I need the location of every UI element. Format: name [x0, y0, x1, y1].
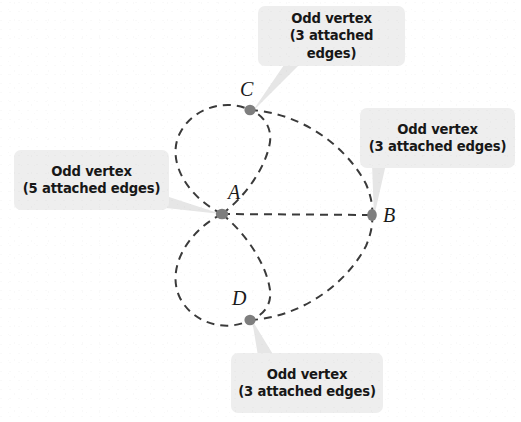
vertex-label-d: D: [232, 288, 246, 308]
diagram-canvas: A B C D Odd vertex (3 attached edges) Od…: [0, 0, 521, 422]
edge-d-b-outer-curve: [250, 215, 372, 320]
callout-line-1: Odd vertex: [51, 163, 131, 180]
callout-odd-vertex-d: Odd vertex (3 attached edges): [231, 353, 383, 413]
callout-line-1: Odd vertex: [267, 366, 347, 383]
callout-odd-vertex-a: Odd vertex (5 attached edges): [14, 150, 169, 210]
edge-a-b-straight: [222, 214, 372, 215]
vertex-dot-d[interactable]: [244, 315, 255, 325]
vertex-dot-b[interactable]: [367, 209, 377, 221]
callout-line-2: (3 attached edges): [238, 383, 375, 400]
vertex-dot-c[interactable]: [244, 105, 255, 115]
callout-line-2: (3 attached edges): [264, 27, 399, 62]
vertex-dot-a[interactable]: [216, 209, 228, 219]
callout-odd-vertex-b: Odd vertex (3 attached edges): [360, 108, 515, 168]
callout-line-1: Odd vertex: [291, 10, 371, 27]
vertex-label-c: C: [240, 79, 253, 99]
vertex-label-a: A: [228, 182, 240, 202]
callout-line-2: (5 attached edges): [23, 180, 160, 197]
callout-odd-vertex-c: Odd vertex (3 attached edges): [258, 6, 405, 66]
callout-line-2: (3 attached edges): [369, 138, 506, 155]
callout-line-1: Odd vertex: [397, 121, 477, 138]
vertex-label-b: B: [383, 205, 395, 225]
